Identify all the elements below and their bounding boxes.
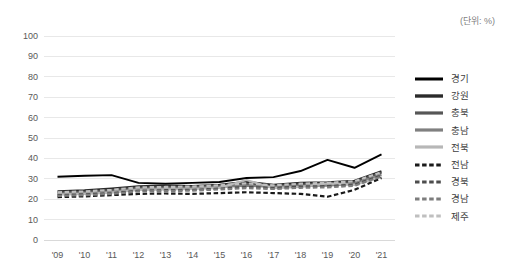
x-axis-tick-label: '17: [259, 250, 289, 260]
legend-swatch-icon: [414, 91, 444, 101]
legend-swatch-icon: [414, 108, 444, 118]
legend-label: 제주: [451, 211, 469, 222]
chart-legend: 경기강원충북충남전북전남경북경남제주: [414, 70, 504, 225]
x-axis-tick-label: '10: [70, 250, 100, 260]
x-axis-tick-label: '09: [43, 250, 73, 260]
legend-item-전남[interactable]: 전남: [414, 156, 504, 173]
legend-label: 충북: [451, 107, 469, 118]
legend-item-경기[interactable]: 경기: [414, 70, 504, 87]
x-axis-tick-label: '13: [151, 250, 181, 260]
legend-label: 강원: [451, 90, 469, 101]
y-axis-tick-label: 30: [8, 174, 38, 184]
legend-item-제주[interactable]: 제주: [414, 208, 504, 225]
legend-item-전북[interactable]: 전북: [414, 139, 504, 156]
y-axis-tick-label: 100: [8, 31, 38, 41]
legend-swatch-icon: [414, 177, 444, 187]
legend-swatch-icon: [414, 142, 444, 152]
x-axis-tick-label: '12: [124, 250, 154, 260]
legend-swatch-icon: [414, 125, 444, 135]
x-axis-tick-label: '16: [232, 250, 262, 260]
x-axis-tick-label: '21: [367, 250, 397, 260]
legend-label: 경기: [451, 73, 469, 84]
y-axis-tick-label: 60: [8, 113, 38, 123]
y-axis-tick-label: 40: [8, 153, 38, 163]
x-axis-tick-label: '20: [340, 250, 370, 260]
plot-area: [0, 0, 410, 271]
legend-swatch-icon: [414, 211, 444, 221]
legend-item-강원[interactable]: 강원: [414, 87, 504, 104]
y-axis-tick-label: 80: [8, 72, 38, 82]
legend-swatch-icon: [414, 74, 444, 84]
unit-note: (단위: %): [460, 14, 495, 27]
x-axis-tick-label: '15: [205, 250, 235, 260]
y-axis-tick-label: 20: [8, 194, 38, 204]
y-axis-tick-label: 10: [8, 215, 38, 225]
x-axis-tick-label: '11: [97, 250, 127, 260]
legend-label: 전남: [451, 159, 469, 170]
legend-item-충북[interactable]: 충북: [414, 104, 504, 121]
y-axis-tick-label: 50: [8, 133, 38, 143]
y-axis-tick-label: 0: [8, 235, 38, 245]
x-axis-tick-label: '19: [313, 250, 343, 260]
legend-label: 경북: [451, 176, 469, 187]
y-axis-tick-label: 90: [8, 51, 38, 61]
legend-item-경남[interactable]: 경남: [414, 190, 504, 207]
x-axis-tick-label: '18: [286, 250, 316, 260]
legend-swatch-icon: [414, 194, 444, 204]
line-chart: (단위: %) 경기강원충북충남전북전남경북경남제주 0102030405060…: [0, 0, 505, 271]
legend-item-경북[interactable]: 경북: [414, 173, 504, 190]
y-axis-tick-label: 70: [8, 92, 38, 102]
legend-label: 충남: [451, 125, 469, 136]
legend-label: 전북: [451, 142, 469, 153]
legend-swatch-icon: [414, 160, 444, 170]
x-axis-tick-label: '14: [178, 250, 208, 260]
legend-item-충남[interactable]: 충남: [414, 122, 504, 139]
legend-label: 경남: [451, 193, 469, 204]
plot-svg: [0, 0, 410, 271]
